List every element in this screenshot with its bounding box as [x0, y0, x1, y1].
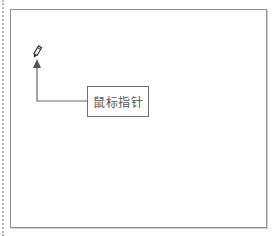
callout-label-box: 鼠标指针: [87, 86, 149, 117]
pencil-icon: [32, 46, 41, 59]
arrowhead-up-icon: [33, 59, 41, 68]
callout-arrow: [33, 59, 87, 101]
annotation-layer: [0, 0, 274, 236]
callout-label: 鼠标指针: [93, 93, 143, 110]
